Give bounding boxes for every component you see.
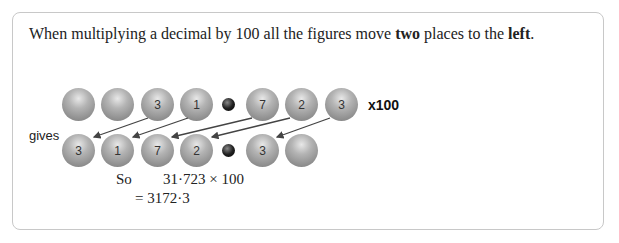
ball: 3 — [246, 134, 279, 167]
expression: 31·723 × 100 — [163, 171, 244, 188]
ball: 1 — [101, 134, 134, 167]
ball: 2 — [180, 134, 213, 167]
ball: 3 — [62, 134, 95, 167]
decimal-point — [222, 144, 235, 157]
ball: 7 — [141, 134, 174, 167]
gives-label: gives — [29, 128, 59, 143]
shift-arrows — [0, 0, 619, 243]
so-label: So — [116, 171, 132, 188]
result: = 3172·3 — [135, 190, 190, 207]
ball — [285, 134, 318, 167]
